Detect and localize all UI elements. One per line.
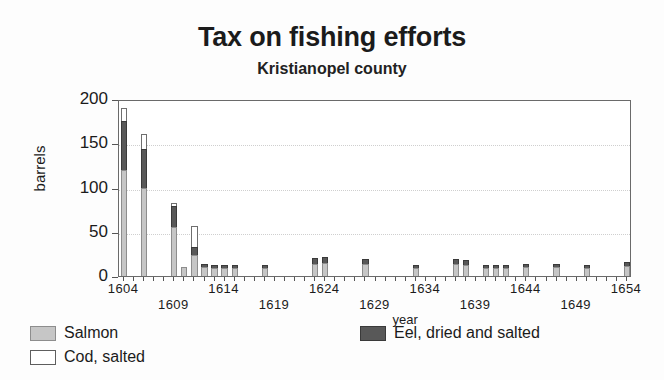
x-tick-mark [254,277,255,281]
bar-segment-eel [191,247,197,255]
x-tick-label: 1609 [158,297,189,312]
bar-segment-salmon [362,264,368,276]
x-tick-mark [576,277,577,281]
gridline [119,190,630,191]
x-tick-label: 1649 [560,297,591,312]
chart-legend: Salmon Cod, salted Eel, dried and salted [30,324,650,374]
gridline [119,145,630,146]
bar-stack [453,259,459,276]
bar-segment-salmon [584,268,590,276]
x-tick-mark [556,277,557,281]
x-tick-mark [244,277,245,281]
bar-stack [553,264,559,276]
bar-stack [141,134,147,276]
bar-stack [503,265,509,277]
bar-segment-salmon [523,267,529,276]
x-tick-label: 1654 [611,281,642,296]
bar-stack [624,262,630,276]
x-tick-label: 1604 [108,281,139,296]
x-tick-mark [153,277,154,281]
bar-segment-salmon [141,188,147,277]
bar-stack [523,264,529,276]
x-tick-mark [264,277,265,281]
bar-stack [362,259,368,276]
bar-stack [262,265,268,276]
x-tick-mark [385,277,386,281]
bar-segment-salmon [453,264,459,276]
x-tick-mark [505,277,506,281]
x-tick-label: 1639 [460,297,491,312]
x-tick-mark [455,277,456,281]
x-tick-label: 1614 [208,281,239,296]
x-tick-mark [375,277,376,281]
bar-segment-salmon [181,267,187,276]
legend-item-salmon: Salmon [30,324,118,342]
x-tick-mark [344,277,345,281]
x-tick-mark [234,277,235,281]
bar-stack [322,257,328,276]
bar-segment-salmon [493,268,499,276]
bar-segment-salmon [553,267,559,276]
x-tick-mark [606,277,607,281]
bar-segment-eel [121,121,127,170]
bar-stack [493,265,499,277]
bar-segment-salmon [221,268,227,276]
legend-item-cod: Cod, salted [30,348,145,366]
bar-segment-eel [141,149,147,187]
y-axis-label: barrels [31,124,48,214]
y-tick-label: 0 [52,266,108,286]
bar-segment-salmon [503,268,509,276]
x-tick-label: 1624 [309,281,340,296]
plot-area [118,100,631,277]
bar-stack [312,258,318,276]
x-tick-mark [395,277,396,281]
x-tick-mark [435,277,436,281]
x-tick-mark [495,277,496,281]
y-tick-mark [112,144,118,145]
chart-subtitle: Kristianopel county [0,60,664,78]
x-tick-mark [193,277,194,281]
x-tick-label: 1629 [359,297,390,312]
bar-segment-salmon [262,268,268,276]
bar-stack [121,108,127,276]
x-tick-mark [204,277,205,281]
x-tick-mark [546,277,547,281]
bar-segment-salmon [121,170,127,276]
x-tick-mark [133,277,134,281]
x-tick-mark [354,277,355,281]
x-tick-mark [586,277,587,281]
bar-segment-salmon [201,267,207,276]
x-tick-mark [143,277,144,281]
y-tick-label: 100 [52,178,108,198]
bar-segment-eel [171,206,177,227]
bar-stack [413,265,419,277]
x-tick-mark [284,277,285,281]
y-tick-label: 150 [52,133,108,153]
y-tick-label: 50 [52,222,108,242]
bar-segment-salmon [483,268,489,276]
x-tick-mark [535,277,536,281]
bar-segment-salmon [624,266,630,276]
y-tick-mark [112,100,118,101]
chart-figure: Tax on fishing efforts Kristianopel coun… [0,0,664,380]
x-tick-mark [566,277,567,281]
legend-item-eel: Eel, dried and salted [360,324,540,342]
bar-segment-salmon [191,255,197,276]
x-tick-mark [173,277,174,281]
bar-stack [483,265,489,277]
y-tick-mark [112,277,118,278]
bar-stack [463,260,469,276]
chart-title: Tax on fishing efforts [0,22,664,53]
bar-segment-salmon [171,227,177,276]
bar-segment-cod [141,134,147,149]
bar-stack [191,226,197,276]
x-axis-label: year [393,312,418,327]
x-tick-mark [465,277,466,281]
bar-stack [221,265,227,277]
bar-segment-salmon [232,268,238,276]
bar-stack [584,265,590,277]
bar-stack [171,203,177,276]
bar-segment-cod [121,108,127,121]
x-tick-mark [334,277,335,281]
legend-swatch-cod-icon [30,350,56,365]
